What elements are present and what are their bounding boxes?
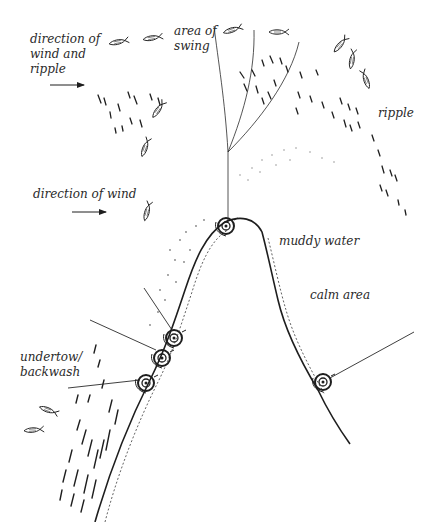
label-area-of-swing: area of swing — [174, 24, 217, 54]
ripple-marks — [98, 56, 406, 215]
label-ripple: ripple — [378, 106, 414, 121]
angler-icon — [135, 375, 158, 393]
label-wind-and-ripple: direction of wind and ripple — [30, 32, 100, 77]
angler-icon — [163, 330, 186, 348]
fishing-diagram — [0, 0, 442, 522]
label-undertow-backwash: undertow/ backwash — [20, 350, 82, 380]
dotted-wash — [239, 147, 335, 181]
label-muddy-water: muddy water — [279, 234, 359, 249]
fishing-lines — [68, 288, 414, 388]
bank-outline — [95, 218, 350, 522]
swing-lines — [214, 26, 299, 222]
label-direction-of-wind: direction of wind — [33, 187, 137, 202]
stippling — [149, 219, 205, 326]
label-calm-area: calm area — [310, 288, 370, 303]
